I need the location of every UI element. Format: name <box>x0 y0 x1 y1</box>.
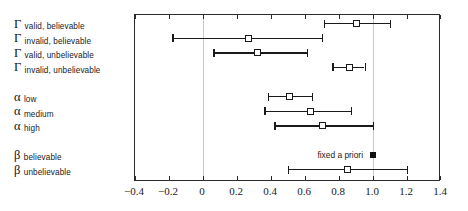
interval-cap-lower <box>324 20 325 28</box>
interval-cap-upper <box>351 107 352 115</box>
axis-tick-1.2 <box>407 176 408 180</box>
interval-cap-lower <box>213 49 214 57</box>
interval-cap-lower <box>288 166 289 174</box>
axis-tick-1.4 <box>440 15 441 19</box>
estimate-marker <box>319 122 326 129</box>
interval-cap-upper <box>322 34 323 42</box>
row-label: Γ valid, believable <box>14 16 85 30</box>
axis-tick-label: 0.4 <box>263 185 277 197</box>
axis-tick-label: 1.0 <box>365 185 379 197</box>
row-label-text: invalid, unbelievable <box>22 66 100 75</box>
row-label: α medium <box>14 103 54 117</box>
axis-tick-1 <box>373 176 374 180</box>
fixed-a-priori-annotation: fixed a priori <box>317 149 363 161</box>
axis-tick-label: −0.4 <box>124 185 144 197</box>
axis-tick-label: 0 <box>199 185 205 197</box>
axis-tick-label: 0.8 <box>331 185 345 197</box>
greek-symbol: Γ <box>14 60 22 74</box>
interval-cap-lower <box>274 122 275 130</box>
greek-symbol: Γ <box>14 17 22 31</box>
greek-symbol: α <box>14 90 22 104</box>
axis-tick-0 <box>203 176 204 180</box>
axis-tick-0.4 <box>271 176 272 180</box>
axis-tick-label: −0.2 <box>158 185 178 197</box>
interval-row: fixed a priori <box>135 149 439 161</box>
estimate-marker <box>344 166 351 173</box>
interval-cap-upper <box>407 166 408 174</box>
interval-row <box>135 120 439 132</box>
axis-tick-label: 1.2 <box>399 185 413 197</box>
greek-symbol: α <box>14 104 22 118</box>
estimate-marker <box>353 20 360 27</box>
axis-tick--0.2 <box>169 176 170 180</box>
axis-tick-label: 0.6 <box>297 185 311 197</box>
greek-symbol: α <box>14 119 22 133</box>
interval-row <box>135 32 439 44</box>
interval-cap-upper <box>307 49 308 57</box>
row-label-text: unbelievable <box>21 168 71 177</box>
row-label: Γ invalid, unbelievable <box>14 59 100 73</box>
interval-row <box>135 61 439 73</box>
estimate-marker <box>370 152 376 158</box>
estimate-marker <box>307 108 314 115</box>
estimate-marker <box>254 49 261 56</box>
interval-cap-lower <box>268 93 269 101</box>
row-label: α high <box>14 118 40 132</box>
forest-plot-figure: Γ valid, believableΓ invalid, believable… <box>0 0 468 211</box>
interval-cap-upper <box>373 122 374 130</box>
row-label-text: high <box>22 124 40 133</box>
row-label: Γ invalid, believable <box>14 30 91 44</box>
interval-cap-upper <box>312 93 313 101</box>
interval-cap-lower <box>264 107 265 115</box>
row-label: β unbelievable <box>14 162 71 176</box>
interval-cap-upper <box>390 20 391 28</box>
axis-tick--0.4 <box>135 176 136 180</box>
row-label-column: Γ valid, believableΓ invalid, believable… <box>0 0 134 211</box>
interval-cap-lower <box>172 34 173 42</box>
greek-symbol: Γ <box>14 31 22 45</box>
interval-row <box>135 18 439 30</box>
axis-tick-0.6 <box>305 176 306 180</box>
axis-tick-1.4 <box>440 176 441 180</box>
axis-tick-0.2 <box>237 176 238 180</box>
interval-row <box>135 47 439 59</box>
interval-row <box>135 164 439 176</box>
interval-cap-lower <box>332 63 333 71</box>
axis-tick-label: 0.2 <box>229 185 243 197</box>
row-label: β believable <box>14 147 62 161</box>
interval-cap-upper <box>365 63 366 71</box>
interval-row <box>135 105 439 117</box>
estimate-marker <box>286 93 293 100</box>
estimate-marker <box>346 64 353 71</box>
row-label: Γ valid, unbelievable <box>14 45 94 59</box>
axis-tick-0.8 <box>339 176 340 180</box>
estimate-marker <box>245 35 252 42</box>
greek-symbol: Γ <box>14 46 22 60</box>
interval-row <box>135 91 439 103</box>
plot-panel: fixed a priori <box>134 14 440 181</box>
axis-tick-label: 1.4 <box>433 185 447 197</box>
row-label: α low <box>14 89 37 103</box>
